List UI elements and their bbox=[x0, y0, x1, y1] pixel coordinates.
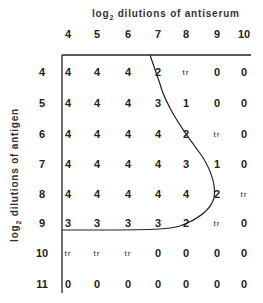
column-label: 8 bbox=[183, 28, 189, 40]
table-cell: 0 bbox=[241, 278, 247, 290]
table-cell: 0 bbox=[241, 97, 247, 109]
table-cell: 4 bbox=[65, 66, 71, 78]
row-label: 8 bbox=[39, 188, 45, 200]
table-cell: 3 bbox=[183, 158, 189, 170]
table-cell: 4 bbox=[125, 188, 131, 200]
column-label: 6 bbox=[125, 28, 131, 40]
table-cell: 4 bbox=[65, 158, 71, 170]
column-label: 7 bbox=[155, 28, 161, 40]
table-cell: tr bbox=[125, 249, 132, 258]
table-cell: tr bbox=[65, 249, 72, 258]
column-label: 5 bbox=[94, 28, 100, 40]
table-cell: tr bbox=[94, 249, 101, 258]
column-label: 4 bbox=[65, 28, 71, 40]
table-cell: 4 bbox=[94, 97, 100, 109]
column-label: 10 bbox=[238, 28, 250, 40]
table-cell: tr bbox=[214, 219, 221, 228]
table-cell: 0 bbox=[241, 66, 247, 78]
table-cell: 4 bbox=[155, 188, 161, 200]
table-cell: 4 bbox=[125, 97, 131, 109]
table-cell: tr bbox=[241, 190, 248, 199]
boundary-curve bbox=[62, 55, 215, 230]
table-cell: 0 bbox=[183, 278, 189, 290]
table-cell: 3 bbox=[155, 217, 161, 229]
table-cell: 0 bbox=[183, 247, 189, 259]
table-cell: 0 bbox=[155, 278, 161, 290]
table-cell: 0 bbox=[214, 97, 220, 109]
table-cell: tr bbox=[183, 68, 190, 77]
row-label: 4 bbox=[39, 66, 45, 78]
table-cell: 0 bbox=[214, 247, 220, 259]
table-cell: 1 bbox=[183, 97, 189, 109]
table-cell: 0 bbox=[94, 278, 100, 290]
row-label: 9 bbox=[39, 217, 45, 229]
table-cell: 4 bbox=[94, 158, 100, 170]
table-cell: 4 bbox=[94, 66, 100, 78]
table-cell: 0 bbox=[65, 278, 71, 290]
row-label: 11 bbox=[36, 278, 48, 290]
table-cell: 0 bbox=[155, 247, 161, 259]
table-cell: 0 bbox=[241, 217, 247, 229]
table-cell: 3 bbox=[125, 217, 131, 229]
table-cell: 3 bbox=[65, 217, 71, 229]
table-cell: 0 bbox=[214, 66, 220, 78]
table-cell: 4 bbox=[125, 158, 131, 170]
table-cell: 4 bbox=[65, 188, 71, 200]
table-cell: 0 bbox=[241, 247, 247, 259]
table-cell: 2 bbox=[183, 128, 189, 140]
row-label: 5 bbox=[39, 97, 45, 109]
row-label: 10 bbox=[36, 247, 48, 259]
column-label: 9 bbox=[214, 28, 220, 40]
table-cell: 1 bbox=[214, 158, 220, 170]
table-cell: 2 bbox=[155, 66, 161, 78]
table-cell: 0 bbox=[241, 158, 247, 170]
table-cell: 4 bbox=[125, 66, 131, 78]
table-cell: 4 bbox=[125, 128, 131, 140]
table-cell: 2 bbox=[214, 188, 220, 200]
checkerboard-titration-figure: log2 dilutions of antiserum log2 dilutio… bbox=[0, 0, 263, 303]
table-cell: 4 bbox=[65, 97, 71, 109]
table-cell: 0 bbox=[241, 128, 247, 140]
table-cell: 3 bbox=[155, 97, 161, 109]
table-cell: 4 bbox=[155, 128, 161, 140]
table-cell: tr bbox=[214, 130, 221, 139]
table-cell: 4 bbox=[65, 128, 71, 140]
table-cell: 2 bbox=[183, 217, 189, 229]
table-cell: 3 bbox=[94, 217, 100, 229]
row-label: 7 bbox=[39, 158, 45, 170]
table-cell: 4 bbox=[94, 128, 100, 140]
table-cell: 4 bbox=[183, 188, 189, 200]
table-cell: 4 bbox=[155, 158, 161, 170]
table-cell: 4 bbox=[94, 188, 100, 200]
row-label: 6 bbox=[39, 128, 45, 140]
table-cell: 0 bbox=[125, 278, 131, 290]
table-cell: 0 bbox=[214, 278, 220, 290]
